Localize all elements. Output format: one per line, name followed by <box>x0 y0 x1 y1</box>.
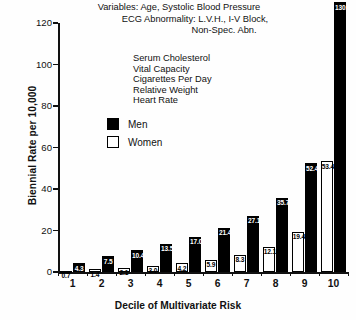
x-tick-label: 8 <box>261 278 291 289</box>
y-tick <box>53 188 58 189</box>
y-tick <box>53 22 58 23</box>
y-tick <box>53 64 58 65</box>
bar-women: 3.0 <box>147 266 159 272</box>
y-tick-label: 20 <box>12 225 52 236</box>
x-tick-label: 5 <box>174 278 204 289</box>
bar-value-label: 4.3 <box>74 265 84 272</box>
bar-men: 10.4 <box>131 250 143 272</box>
bar-value-label: 1.4 <box>90 271 100 278</box>
bar-men: 35.7 <box>276 198 288 272</box>
x-tick <box>290 272 291 276</box>
bar-value-label: 21.4 <box>219 229 229 236</box>
bar-value-label: 27.1 <box>248 217 258 224</box>
bar-women: 2.1 <box>118 268 130 272</box>
bar-men: 17.0 <box>189 237 201 272</box>
x-tick-label: 2 <box>87 278 117 289</box>
bar-value-label: 17.0 <box>190 238 200 245</box>
y-tick <box>53 147 58 148</box>
y-axis-spine <box>58 23 60 272</box>
x-tick-label: 6 <box>203 278 233 289</box>
x-tick <box>87 272 88 276</box>
bar-women: 4.2 <box>176 263 188 272</box>
bar-women: 1.4 <box>89 269 101 272</box>
chart-figure: Variables: Age, Systolic Blood Pressure … <box>0 0 356 320</box>
bar-women: 8.3 <box>234 255 246 272</box>
y-tick <box>53 105 58 106</box>
bar-women: 12.1 <box>263 247 275 272</box>
y-tick-label: 40 <box>12 183 52 194</box>
y-tick-label: 80 <box>12 100 52 111</box>
bar-men: 4.3 <box>73 263 85 272</box>
x-axis-label: Decile of Multivariate Risk <box>0 300 356 311</box>
x-tick <box>145 272 146 276</box>
bar-value-label: 0.7 <box>61 272 71 279</box>
x-tick <box>203 272 204 276</box>
bar-value-label: 5.9 <box>206 261 216 268</box>
bar-value-label: 2.1 <box>119 269 129 276</box>
x-tick <box>232 272 233 276</box>
bar-women: 5.9 <box>205 260 217 272</box>
bar-value-label: 4.2 <box>177 265 187 272</box>
y-tick-label: 0 <box>12 266 52 277</box>
bar-men: 52.4 <box>305 163 317 272</box>
x-tick-label: 7 <box>232 278 262 289</box>
header-line-1: Variables: Age, Systolic Blood Pressure <box>0 2 356 14</box>
bar-value-label: 12.1 <box>264 248 274 255</box>
x-tick <box>348 272 349 276</box>
x-tick-label: 10 <box>319 278 349 289</box>
bar-women: 53.4 <box>321 161 333 272</box>
x-tick <box>174 272 175 276</box>
bar-value-label: 3.0 <box>148 267 158 274</box>
bar-men: 13.5 <box>160 244 172 272</box>
bar-value-label: 53.4 <box>322 163 332 170</box>
bar-women: 0.7 <box>60 271 72 273</box>
bar-value-label: 10.4 <box>132 252 142 259</box>
y-tick-label: 60 <box>12 142 52 153</box>
bar-value-label: 13.5 <box>161 245 171 252</box>
bar-men: 27.1 <box>247 216 259 272</box>
x-tick-label: 3 <box>116 278 146 289</box>
x-tick-label: 1 <box>58 278 88 289</box>
y-tick <box>53 230 58 231</box>
x-tick <box>116 272 117 276</box>
bar-women: 19.4 <box>292 232 304 272</box>
x-tick-label: 9 <box>290 278 320 289</box>
bar-men: 130.1 <box>334 2 346 272</box>
x-tick <box>261 272 262 276</box>
bar-value-label: 19.4 <box>293 233 303 240</box>
y-tick-label: 120 <box>12 17 52 28</box>
plot-area: 020406080100120 12345678910 0.74.31.47.5… <box>58 14 348 272</box>
bar-men: 21.4 <box>218 228 230 272</box>
bar-men: 7.5 <box>102 256 114 272</box>
bar-value-label: 130.1 <box>335 4 345 11</box>
bar-value-label: 52.4 <box>306 165 316 172</box>
x-tick <box>58 272 59 276</box>
bar-value-label: 7.5 <box>103 258 113 265</box>
y-tick-label: 100 <box>12 59 52 70</box>
bar-value-label: 8.3 <box>235 256 245 263</box>
bar-value-label: 35.7 <box>277 199 287 206</box>
x-tick-label: 4 <box>145 278 175 289</box>
x-tick <box>319 272 320 276</box>
